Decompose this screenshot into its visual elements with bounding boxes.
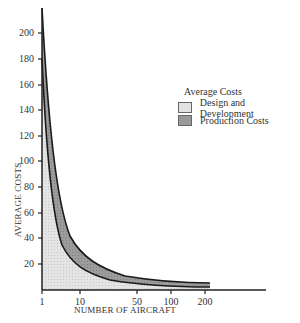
y-tick-label-140: 140 [12, 105, 34, 115]
y-tick-label-200: 200 [12, 28, 34, 38]
legend-title: Average Costs [184, 86, 300, 97]
design-development-swatch [178, 102, 192, 113]
y-tick-label-180: 180 [12, 54, 34, 64]
legend: Average Costs Design and Development Pro… [178, 86, 300, 127]
legend-item-design-development: Design and Development [178, 101, 300, 114]
cost-chart: 200 180 160 140 120 100 80 60 40 20 1 10… [0, 0, 300, 323]
chart-plot [0, 0, 300, 323]
y-tick-label-120: 120 [12, 131, 34, 141]
y-tick-label-20: 20 [12, 259, 34, 269]
y-axis-title: AVERAGE COSTS [13, 150, 23, 250]
production-costs-area [42, 8, 210, 287]
legend-label: Production Costs [200, 115, 269, 126]
production-costs-swatch [178, 115, 192, 126]
y-tick-label-160: 160 [12, 80, 34, 90]
x-axis-title: NUMBER OF AIRCRAFT [0, 305, 230, 315]
